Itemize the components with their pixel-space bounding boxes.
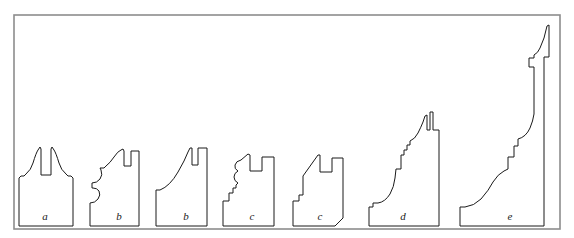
profile-label-c1: c [250, 210, 255, 222]
profile-shape-b1 [90, 149, 139, 226]
profile-group-a: a [19, 147, 73, 226]
profile-group-d: d [369, 112, 439, 226]
profile-shape-c1 [223, 154, 274, 226]
profile-shape-d [369, 112, 439, 226]
profile-label-b2: b [183, 210, 189, 222]
profile-shape-e [460, 25, 549, 226]
profile-label-b1: b [116, 210, 122, 222]
profile-group-e: e [460, 25, 549, 226]
figure-border [14, 15, 560, 229]
profile-shape-b2 [156, 148, 207, 226]
profile-label-e: e [508, 210, 513, 222]
profile-label-a: a [42, 210, 48, 222]
profile-group-c2: c [293, 155, 343, 226]
figure-container: a b b c c d e [0, 0, 574, 238]
profile-label-d: d [400, 210, 406, 222]
profile-group-c1: c [223, 154, 274, 226]
profile-group-b1: b [90, 149, 139, 226]
molding-profiles-diagram: a b b c c d e [0, 0, 574, 238]
profile-label-c2: c [318, 210, 323, 222]
profile-group-b2: b [156, 148, 207, 226]
